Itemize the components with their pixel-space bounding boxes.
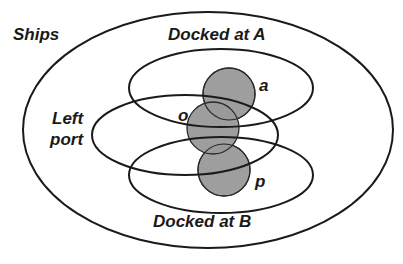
label-left-port-line1: Left xyxy=(52,109,85,128)
venn-diagram: Ships Docked at A Left port Docked at B … xyxy=(0,0,403,264)
label-left-port-line2: port xyxy=(49,130,84,149)
label-element-p: p xyxy=(254,172,265,191)
label-ships: Ships xyxy=(13,25,59,44)
label-element-a: a xyxy=(259,76,268,95)
label-element-o: o xyxy=(178,106,188,125)
label-docked-a: Docked at A xyxy=(168,25,266,44)
label-docked-b: Docked at B xyxy=(153,212,251,231)
